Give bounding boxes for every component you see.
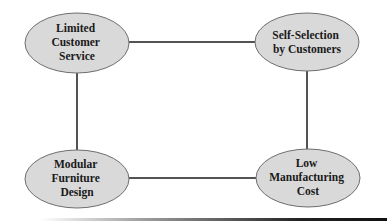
node-label-line: Self-Selection — [272, 29, 339, 41]
node-self-selection-by-customers: Self-Selection by Customers — [255, 13, 359, 71]
node-label-line: by Customers — [273, 43, 342, 56]
node-label-line: Limited — [56, 22, 96, 34]
svg-text:Self-Selection by Custom: Self-Selection by Customers — [272, 29, 341, 56]
node-low-manufacturing-cost: Low Manufacturing Cost — [256, 149, 360, 207]
node-label-line: Furniture — [51, 172, 99, 184]
node-label-line: Cost — [297, 185, 320, 197]
node-limited-customer-service: Limited Customer Service — [25, 13, 129, 73]
concept-map: Limited Customer Service Self-Selection … — [0, 0, 387, 221]
node-label-line: Design — [60, 186, 94, 199]
node-ellipse — [255, 13, 359, 71]
node-label-line: Manufacturing — [269, 171, 344, 184]
node-label-line: Low — [296, 157, 318, 169]
node-modular-furniture-design: Modular Furniture Design — [25, 150, 129, 208]
node-label-line: Modular — [54, 158, 97, 170]
node-label-line: Service — [59, 50, 95, 62]
node-label-line: Customer — [51, 36, 99, 48]
bottom-divider — [40, 218, 387, 221]
